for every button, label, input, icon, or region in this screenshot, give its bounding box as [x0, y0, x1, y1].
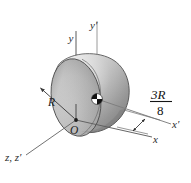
figure-container: y y′ x x′ z, z′ O R 3R 8 [0, 0, 191, 183]
z-axis-label: z, z′ [4, 151, 22, 163]
origin-point [74, 118, 78, 122]
center-of-mass-marker [92, 94, 103, 105]
z-axis-line [26, 120, 76, 155]
hemisphere-solid [46, 54, 129, 140]
dimension-numerator: 3R [150, 87, 166, 102]
radius-label: R [47, 96, 55, 108]
dimension-denominator: 8 [157, 103, 164, 118]
origin-label: O [70, 124, 79, 136]
x-axis-label: x [152, 133, 158, 145]
hemisphere-diagram: y y′ x x′ z, z′ O R 3R 8 [0, 0, 191, 183]
xprime-axis-label: x′ [171, 118, 180, 130]
dimension-arrow-span [133, 119, 145, 131]
dimension-extension-line-xprime [124, 110, 160, 120]
y-axis-label: y [68, 32, 74, 44]
yprime-axis-label: y′ [89, 19, 98, 31]
